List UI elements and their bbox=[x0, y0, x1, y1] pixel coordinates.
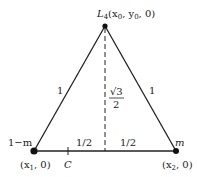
center-label: C bbox=[64, 159, 72, 170]
right-mass-dot bbox=[173, 148, 179, 154]
right-side-label: 1 bbox=[149, 85, 155, 96]
base-right-half-label: 1/2 bbox=[120, 137, 136, 148]
apex-label: L4(x0, y0, 0) bbox=[96, 8, 155, 21]
height-denominator: 2 bbox=[113, 99, 119, 110]
triangle-diagram: L4(x0, y0, 0) 1 1 √3 2 1−m m 1/2 1/2 (x1… bbox=[0, 0, 197, 177]
left-side-label: 1 bbox=[57, 85, 63, 96]
height-numerator: √3 bbox=[110, 86, 123, 97]
apex-dot bbox=[102, 23, 107, 28]
base-left-half-label: 1/2 bbox=[76, 137, 92, 148]
left-side bbox=[34, 26, 105, 151]
right-vertex-coords: (x2, 0) bbox=[162, 159, 193, 172]
right-mass-label: m bbox=[175, 137, 184, 148]
left-mass-dot bbox=[30, 147, 37, 154]
left-mass-label: 1−m bbox=[8, 137, 33, 148]
left-vertex-coords: (x1, 0) bbox=[20, 159, 51, 172]
